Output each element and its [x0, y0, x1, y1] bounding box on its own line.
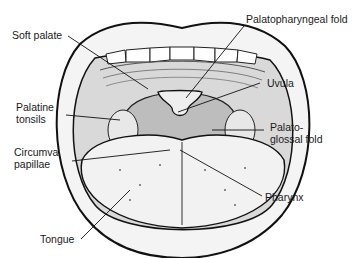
- label-palatine-tonsils-line1: Palatine: [16, 101, 54, 113]
- label-palatoglossal-fold-line1: Palato-: [270, 121, 303, 133]
- label-circumva-papillae-line2: papillae: [14, 158, 50, 170]
- label-palatine-tonsils-line2: tonsils: [16, 113, 46, 125]
- label-tongue: Tongue: [40, 233, 74, 245]
- label-palatoglossal-fold-line2: glossal fold: [270, 133, 323, 145]
- label-pharynx: Pharynx: [265, 191, 304, 203]
- label-uvula: Uvula: [267, 77, 294, 89]
- label-soft-palate: Soft palate: [12, 29, 62, 41]
- label-palatopharyngeal-fold: Palatopharyngeal fold: [246, 13, 348, 25]
- label-circumva-papillae-line1: Circumva: [14, 146, 58, 158]
